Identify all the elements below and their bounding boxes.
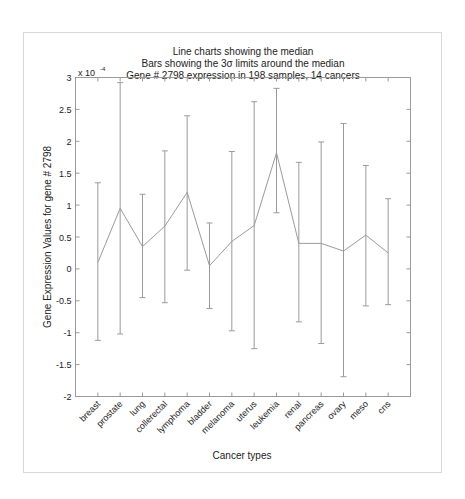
- y-tick-label: 3: [66, 73, 71, 83]
- y-tick-label: -0.5: [56, 296, 72, 306]
- y-tick-label: 1.5: [59, 169, 72, 179]
- y-scale-exponent: -4: [100, 66, 106, 72]
- line-errorbar-chart: Line charts showing the median Bars show…: [0, 0, 465, 499]
- title-line-1: Line charts showing the median: [173, 46, 314, 57]
- title-line-2: Bars showing the 3σ limits around the me…: [142, 58, 345, 69]
- x-axis-label: Cancer types: [213, 450, 272, 461]
- y-tick-label: -1: [63, 328, 71, 338]
- y-tick-label: 2.5: [59, 105, 72, 115]
- y-scale-label: x 10: [78, 68, 95, 78]
- y-axis-label: Gene Expression Values for gene # 2798: [42, 145, 53, 328]
- y-tick-label: -2: [63, 392, 71, 402]
- y-tick-label: 0.5: [59, 233, 72, 243]
- y-tick-label: 2: [66, 137, 71, 147]
- y-tick-label: -1.5: [56, 360, 72, 370]
- y-tick-label: 0: [66, 264, 71, 274]
- chart-figure: Line charts showing the median Bars show…: [0, 0, 465, 499]
- title-line-3: Gene # 2798 expression in 198 samples, 1…: [126, 70, 359, 81]
- y-tick-label: 1: [66, 201, 71, 211]
